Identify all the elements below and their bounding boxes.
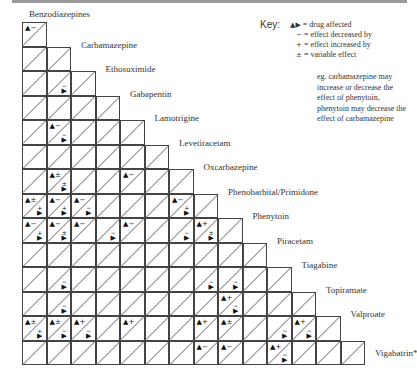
key-entry-drug-affected: ▲▶ = drug affected	[290, 20, 372, 30]
diagonal-divider	[293, 293, 316, 316]
interaction-cell: ▲−	[22, 22, 47, 47]
diagonal-divider	[244, 293, 267, 316]
row-drug-affected-icon: ▲−	[74, 196, 85, 204]
interaction-cell: ▲−−▶	[47, 120, 72, 145]
interaction-cell	[47, 47, 72, 72]
interaction-cell	[22, 341, 47, 366]
interaction-cell	[292, 341, 317, 366]
interaction-cell	[120, 120, 145, 145]
drug-label: Oxcarbazepine	[204, 162, 258, 172]
key-title: Key:	[260, 20, 280, 30]
interaction-cell	[96, 292, 121, 317]
diagonal-divider	[121, 146, 144, 169]
interaction-cell	[96, 316, 121, 341]
interaction-cell: ▲+−▶	[292, 316, 317, 341]
diagonal-divider	[48, 97, 71, 120]
interaction-cell	[47, 145, 72, 170]
interaction-cell: −▶	[47, 71, 72, 96]
row-drug-affected-icon: ▲+	[270, 343, 281, 351]
column-drug-affected-icon: −▶	[62, 132, 67, 143]
interaction-cell	[145, 243, 170, 268]
column-drug-affected-icon: −▶	[62, 83, 67, 94]
diagonal-divider	[97, 121, 120, 144]
row-drug-affected-icon: ▲+	[197, 220, 208, 228]
diagonal-divider	[72, 170, 95, 193]
column-drug-affected-icon: −▶	[86, 328, 91, 339]
column-drug-affected-icon: −▶	[184, 230, 189, 241]
interaction-cell: ▲−−▶	[71, 194, 96, 219]
diagonal-divider	[23, 342, 46, 365]
interaction-cell: ▲−+▶	[22, 218, 47, 243]
diagonal-divider	[23, 72, 46, 95]
row-drug-affected-icon: ▲−	[25, 220, 36, 228]
interaction-cell: ▲±+▶	[22, 316, 47, 341]
diagonal-divider	[23, 146, 46, 169]
interaction-cell	[243, 341, 268, 366]
diagonal-divider	[146, 293, 169, 316]
interaction-cell: −▶	[96, 218, 121, 243]
interaction-cell	[22, 267, 47, 292]
diagonal-divider	[293, 342, 316, 365]
interaction-cell	[71, 243, 96, 268]
diagonal-divider	[97, 342, 120, 365]
column-drug-affected-icon: +▶	[62, 205, 67, 216]
interaction-cell	[145, 292, 170, 317]
interaction-cell	[120, 194, 145, 219]
interaction-cell	[22, 169, 47, 194]
diagonal-divider	[244, 268, 267, 291]
interaction-cell	[316, 341, 341, 366]
interaction-cell	[47, 243, 72, 268]
interaction-cell	[47, 341, 72, 366]
interaction-cell: −▶	[169, 218, 194, 243]
interaction-cell	[96, 194, 121, 219]
interaction-cell	[71, 292, 96, 317]
interaction-cell	[22, 243, 47, 268]
interaction-cell: ▲±	[218, 316, 243, 341]
diagonal-divider	[195, 195, 218, 218]
diagonal-divider	[219, 244, 242, 267]
diagonal-divider	[317, 317, 340, 340]
diagonal-divider	[23, 244, 46, 267]
diagonal-divider	[219, 219, 242, 242]
diagonal-divider	[170, 342, 193, 365]
interaction-cell	[71, 145, 96, 170]
interaction-cell	[194, 194, 219, 219]
row-drug-affected-icon: ▲+	[197, 318, 208, 326]
row-drug-affected-icon: ▲−	[50, 196, 61, 204]
row-drug-affected-icon: ▲±	[25, 196, 36, 204]
diagonal-divider	[146, 195, 169, 218]
row-drug-affected-icon: ▲±	[50, 318, 61, 326]
interaction-cell	[22, 145, 47, 170]
diagonal-divider	[121, 244, 144, 267]
drug-label: Tiagabine	[302, 260, 338, 270]
column-drug-affected-icon: ±▶	[62, 230, 67, 241]
interaction-cell	[96, 120, 121, 145]
interaction-cell	[243, 267, 268, 292]
interaction-cell	[145, 218, 170, 243]
diagonal-divider	[23, 170, 46, 193]
interaction-cell	[96, 96, 121, 121]
interaction-cell: −▶	[267, 316, 292, 341]
interaction-cell	[267, 292, 292, 317]
interaction-cell: ▲+−▶	[267, 341, 292, 366]
diagonal-divider	[146, 146, 169, 169]
interaction-cell: ▲−+▶	[47, 194, 72, 219]
drug-label: Lamotrigine	[155, 113, 200, 123]
diagonal-divider	[97, 195, 120, 218]
diagonal-divider	[72, 97, 95, 120]
interaction-cell	[71, 169, 96, 194]
diagonal-divider	[97, 146, 120, 169]
interaction-cell	[169, 267, 194, 292]
diagonal-divider	[146, 342, 169, 365]
diagonal-divider	[146, 268, 169, 291]
interaction-cell	[96, 267, 121, 292]
interaction-cell	[22, 71, 47, 96]
column-drug-affected-icon: −▶	[86, 205, 91, 216]
row-drug-affected-icon: ▲±	[221, 318, 232, 326]
diagonal-divider	[146, 317, 169, 340]
row-drug-affected-icon: ▲+	[221, 294, 232, 302]
column-drug-affected-icon: −▶	[62, 279, 67, 290]
interaction-cell	[145, 145, 170, 170]
diagonal-divider	[23, 121, 46, 144]
interaction-cell	[120, 243, 145, 268]
